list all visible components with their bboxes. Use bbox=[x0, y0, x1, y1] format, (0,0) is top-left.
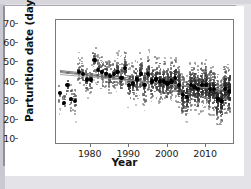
scatter-point bbox=[118, 50, 120, 52]
mean-marker bbox=[58, 91, 62, 95]
scatter-point bbox=[147, 56, 149, 58]
scatter-point bbox=[78, 52, 80, 54]
scatter-point bbox=[212, 96, 214, 98]
scatter-point bbox=[206, 72, 207, 73]
scatter-point bbox=[213, 73, 215, 75]
scatter-point bbox=[128, 63, 130, 65]
scatter-point bbox=[171, 100, 173, 102]
scatter-point bbox=[143, 95, 144, 96]
scatter-point bbox=[166, 89, 167, 90]
scatter-point bbox=[70, 90, 72, 92]
y-tick-mark bbox=[14, 138, 18, 139]
scatter-point bbox=[140, 58, 142, 60]
scatter-point bbox=[152, 95, 154, 97]
x-tick-label: 2000 bbox=[150, 148, 184, 159]
figure-card: Parturition date (days) Year 10203040506… bbox=[5, 6, 244, 176]
scatter-point bbox=[86, 87, 88, 89]
y-tick-mark bbox=[14, 42, 18, 43]
plot-area bbox=[55, 19, 234, 144]
scatter-point bbox=[212, 102, 214, 104]
mean-marker bbox=[139, 72, 143, 76]
scatter-point bbox=[89, 88, 91, 90]
scatter-point bbox=[140, 63, 141, 64]
scatter-point bbox=[110, 92, 112, 94]
scatter-point bbox=[74, 113, 76, 115]
mean-marker bbox=[62, 101, 66, 105]
scatter-point bbox=[194, 109, 196, 111]
y-tick-mark bbox=[14, 23, 18, 24]
scatter-point bbox=[97, 59, 99, 61]
scatter-point bbox=[185, 110, 187, 112]
scatter-point bbox=[201, 62, 203, 64]
y-tick-label: 70 bbox=[0, 17, 15, 28]
scatter-point bbox=[58, 101, 60, 103]
scatter-point bbox=[220, 119, 222, 121]
scatter-point bbox=[64, 105, 66, 107]
scatter-point bbox=[193, 68, 195, 70]
scatter-point bbox=[149, 51, 151, 53]
scatter-point bbox=[227, 93, 229, 95]
mean-marker bbox=[89, 77, 93, 81]
scatter-point bbox=[182, 111, 184, 113]
scatter-point bbox=[197, 65, 199, 67]
scatter-point bbox=[174, 72, 176, 74]
scatter-point bbox=[181, 73, 183, 75]
scatter-point bbox=[215, 107, 217, 109]
scatter-point bbox=[209, 114, 211, 116]
scatter-point bbox=[133, 98, 135, 100]
scatter-point bbox=[117, 54, 119, 56]
scatter-point bbox=[224, 80, 226, 82]
scatter-point bbox=[178, 106, 180, 108]
scatter-point bbox=[203, 102, 204, 103]
scatter-point bbox=[171, 94, 173, 96]
scatter-point bbox=[196, 83, 198, 85]
mean-marker bbox=[185, 95, 189, 99]
scatter-point bbox=[175, 95, 177, 97]
scatter-point bbox=[59, 113, 61, 115]
scatter-point bbox=[93, 66, 94, 67]
scatter-point bbox=[112, 64, 114, 66]
scatter-point bbox=[202, 97, 204, 99]
y-tick-label: 30 bbox=[0, 94, 15, 105]
scatter-point bbox=[229, 111, 231, 113]
scatter-point bbox=[220, 115, 222, 117]
scatter-point bbox=[170, 68, 172, 70]
scatter-point bbox=[227, 64, 229, 66]
scatter-point bbox=[127, 107, 129, 109]
scatter-point bbox=[95, 47, 97, 49]
scatter-point bbox=[100, 57, 102, 59]
scatter-point bbox=[162, 86, 164, 88]
scatter-point bbox=[202, 110, 204, 112]
scatter-point bbox=[175, 97, 177, 99]
y-axis-title: Parturition date (days) bbox=[23, 0, 35, 122]
scatter-point bbox=[82, 69, 84, 71]
scatter-point bbox=[204, 106, 206, 108]
card-edge-top bbox=[0, 0, 251, 4]
scatter-point bbox=[166, 97, 168, 99]
scatter-point bbox=[170, 97, 172, 99]
scatter-point bbox=[145, 100, 147, 102]
scatter-point bbox=[146, 78, 148, 80]
y-tick-label: 50 bbox=[0, 56, 15, 67]
scatter-point bbox=[196, 95, 198, 97]
scatter-point bbox=[160, 68, 162, 70]
y-tick-label: 60 bbox=[0, 37, 15, 48]
scatter-point bbox=[217, 76, 219, 78]
scatter-point bbox=[214, 76, 216, 78]
scatter-point bbox=[158, 65, 160, 67]
scatter-point bbox=[205, 68, 207, 70]
scatter-point bbox=[108, 82, 109, 83]
scatter-point bbox=[144, 110, 146, 112]
mean-marker bbox=[219, 99, 223, 103]
scatter-point bbox=[104, 65, 106, 67]
scatter-point bbox=[222, 113, 224, 115]
scatter-point bbox=[182, 100, 184, 102]
scatter-point bbox=[187, 110, 189, 112]
scatter-point bbox=[136, 95, 138, 97]
scatter-point bbox=[108, 89, 110, 91]
scatter-point bbox=[171, 62, 173, 64]
scatter-point bbox=[129, 68, 131, 70]
scatter-point bbox=[208, 108, 210, 110]
scatter-point bbox=[177, 101, 179, 103]
scatter-point bbox=[163, 75, 164, 76]
